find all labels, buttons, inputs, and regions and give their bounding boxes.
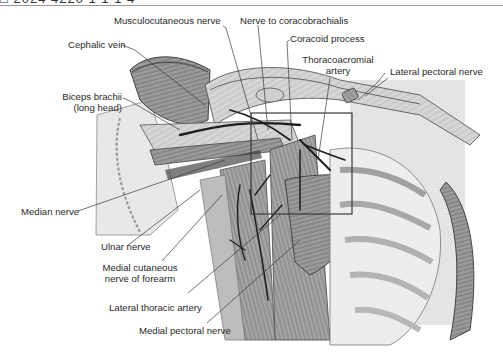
label-lateral-pectoral-nerve: Lateral pectoral nerve [390, 66, 483, 77]
label-thoracoacromial-line2: artery [298, 65, 378, 76]
label-cephalic-vein: Cephalic vein [68, 39, 126, 50]
label-biceps-line2: (long head) [52, 102, 122, 113]
label-medial-cutaneous-nerve-forearm: Medial cutaneous nerve of forearm [100, 262, 180, 284]
label-biceps-brachii-long-head: Biceps brachii (long head) [52, 91, 122, 113]
label-coracoid-process: Coracoid process [290, 33, 365, 44]
label-ulnar-nerve: Ulnar nerve [101, 241, 151, 252]
label-biceps-line1: Biceps brachii [52, 91, 122, 102]
label-medial-cutaneous-line1: Medial cutaneous [100, 262, 180, 273]
coracoid-process-shape [256, 88, 284, 102]
label-medial-cutaneous-line2: nerve of forearm [100, 273, 180, 284]
anatomy-illustration [0, 0, 503, 359]
label-median-nerve: Median nerve [21, 206, 79, 217]
label-medial-pectoral-nerve: Medial pectoral nerve [139, 325, 231, 336]
label-thoracoacromial-artery: Thoracoacromial artery [298, 54, 378, 76]
axillary-wall [200, 160, 275, 340]
label-nerve-to-coracobrachialis: Nerve to coracobrachialis [240, 15, 348, 26]
label-musculocutaneous-nerve: Musculocutaneous nerve [114, 15, 221, 26]
upper-arm [96, 100, 178, 235]
label-lateral-thoracic-artery: Lateral thoracic artery [109, 302, 202, 313]
label-thoracoacromial-line1: Thoracoacromial [298, 54, 378, 65]
